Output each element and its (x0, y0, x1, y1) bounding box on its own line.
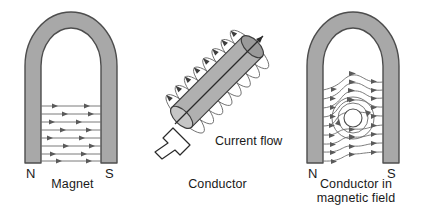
magnet-field-arrowheads (47, 104, 95, 164)
conductor-cross-section (344, 109, 362, 127)
caption-conductor-in-magnetic-field: Conductor in magnetic field (285, 178, 427, 205)
current-flow-arrow (155, 128, 190, 159)
caption-conductor: Conductor (145, 178, 290, 192)
horseshoe-magnet-body-2 (307, 12, 399, 163)
panel-field: N S Conductor in magnetic field (285, 0, 427, 221)
magnetic-field-figure: N S Magnet (0, 0, 427, 221)
caption-magnet: Magnet (0, 178, 145, 192)
panel-magnet: N S Magnet (0, 0, 145, 221)
horseshoe-magnet-body (25, 12, 117, 163)
current-flow-label: Current flow (215, 134, 282, 148)
panel-conductor: Current flow Conductor (145, 0, 290, 221)
